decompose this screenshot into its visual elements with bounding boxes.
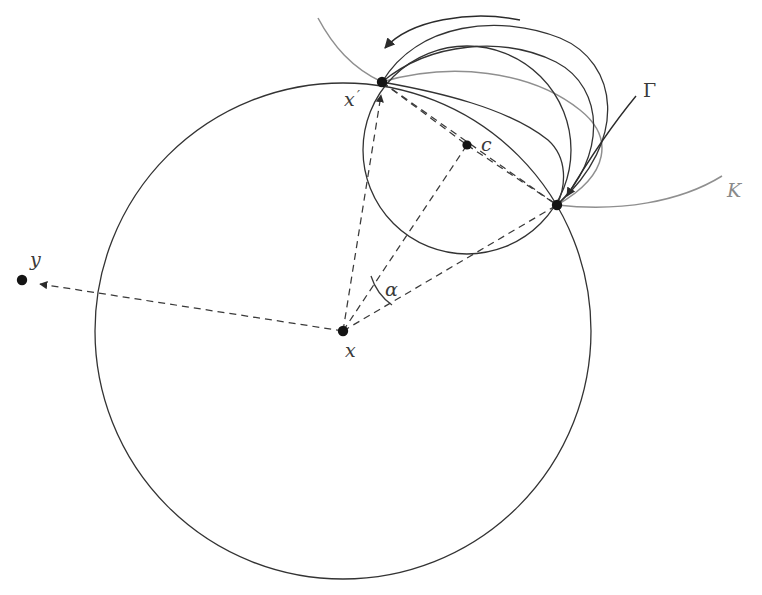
k-curve-group (150, 18, 722, 207)
segment-x-to-kpoint (343, 205, 557, 331)
label-y: y (29, 248, 41, 270)
point-x-prime-marker[interactable] (377, 77, 387, 87)
label-x: x (345, 339, 356, 361)
diagram-canvas: y x x ′ c α Γ K (0, 0, 762, 595)
gamma-curve-inner (382, 82, 564, 205)
point-markers (17, 77, 562, 336)
k-curve-arc-upper (382, 71, 602, 205)
label-alpha: α (385, 278, 398, 300)
tangent-curve-left (305, 18, 382, 82)
point-c-marker[interactable] (462, 140, 471, 149)
k-curve-right-tail (557, 176, 722, 207)
label-x-prime-mark: ′ (357, 88, 360, 103)
point-y-marker[interactable] (17, 275, 27, 285)
label-K: K (726, 179, 743, 201)
small-circle (363, 46, 571, 254)
k-curve-left-tail (318, 18, 382, 82)
gamma-curve-outer (382, 25, 608, 205)
segment-x-to-c (343, 145, 467, 331)
geometry-figure: y x x ′ c α Γ K (0, 0, 762, 595)
point-k-marker[interactable] (552, 200, 562, 210)
label-x-prime: x (344, 88, 355, 110)
gamma-curve-lower-tail (557, 205, 700, 258)
k-curve-left-arm (150, 60, 382, 82)
label-c: c (481, 133, 492, 155)
arrow-to-x-prime[interactable] (385, 16, 520, 48)
dashed-construction-lines (40, 82, 557, 331)
label-x-prime-group: x ′ (344, 88, 360, 110)
gamma-curve-middle (382, 46, 594, 205)
segment-x-to-xprime (343, 95, 381, 331)
point-x-marker[interactable] (338, 326, 348, 336)
segment-x-to-y (40, 284, 343, 331)
label-gamma: Γ (643, 79, 656, 101)
